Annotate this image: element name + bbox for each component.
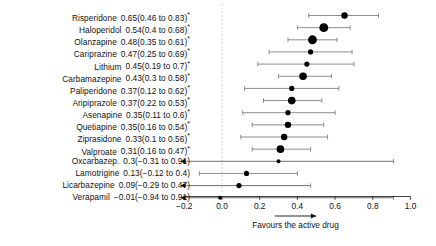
forest-row: [241, 134, 328, 140]
forest-row-label: Paliperidone0.37(0.12 to 0.62)*: [0, 84, 190, 95]
forest-row: [186, 159, 394, 164]
forest-row-label: Licarbazepine0.09(−0.29 to 0.47): [0, 181, 190, 189]
effect-size-marker: [244, 171, 249, 176]
x-axis-tick-label: 0.6: [329, 202, 341, 210]
forest-row: [279, 72, 332, 80]
forest-row-label: Lithium0.45(0.19 to 0.7)*: [0, 60, 190, 71]
study-name: Quetiapine: [76, 122, 117, 132]
favours-caption: Favours the active drug: [252, 221, 339, 230]
effect-size-text: 0.3(−0.31 to 0.91): [123, 156, 190, 166]
forest-row-label: Valproate0.31(0.16 to 0.47)*: [0, 145, 190, 156]
effect-size-text: 0.48(0.35 to 0.61): [121, 37, 187, 47]
study-name: Cariprazine: [74, 49, 117, 59]
effect-size-marker: [277, 145, 285, 153]
forest-row-label: Ziprasidone0.33(0.1 to 0.56)*: [0, 132, 190, 143]
forest-row: [309, 12, 379, 18]
effect-size-marker: [277, 159, 281, 163]
x-axis-tick-label: −0.2: [176, 202, 192, 210]
forest-row: [258, 62, 354, 67]
x-axis-tick-label: 1.0: [405, 202, 417, 210]
forest-row: [186, 183, 311, 188]
effect-size-marker: [285, 122, 291, 128]
significance-asterisk: *: [187, 120, 190, 127]
effect-size-text: 0.45(0.19 to 0.7): [125, 61, 187, 71]
significance-asterisk: *: [187, 35, 190, 42]
effect-size-marker: [341, 12, 347, 18]
effect-size-text: 0.43(0.3 to 0.58): [125, 73, 187, 83]
effect-size-marker: [289, 86, 294, 91]
study-name: Lithium: [94, 61, 121, 71]
effect-size-text: 0.47(0.25 to 0.69): [121, 49, 187, 59]
study-name: Verapamil: [72, 192, 109, 202]
forest-row: [269, 49, 352, 54]
forest-row-label: Verapamil−0.01(−0.94 to 0.91): [0, 193, 190, 201]
significance-asterisk: *: [187, 11, 190, 18]
effect-size-marker: [299, 72, 307, 80]
forest-row-label: Lamotrigine0.13(−0.12 to 0.4): [0, 169, 190, 177]
forest-row-label: Cariprazine0.47(0.25 to 0.69)*: [0, 47, 190, 58]
significance-asterisk: *: [187, 72, 190, 79]
effect-size-marker: [319, 23, 328, 32]
significance-asterisk: *: [187, 84, 190, 91]
forest-row: [288, 35, 337, 44]
effect-size-text: 0.65(0.46 to 0.83): [121, 13, 187, 23]
forest-row-label: Asenapine0.35(0.11 to 0.6)*: [0, 108, 190, 119]
effect-size-text: 0.37(0.22 to 0.53): [121, 98, 187, 108]
effect-size-text: 0.33(0.1 to 0.56): [125, 134, 187, 144]
forest-row: [297, 23, 350, 32]
significance-asterisk: *: [187, 145, 190, 152]
forest-row: [252, 145, 310, 153]
effect-size-text: 0.31(0.16 to 0.47): [121, 146, 187, 156]
effect-size-text: 0.13(−0.12 to 0.4): [123, 168, 190, 178]
study-name: Paliperidone: [70, 86, 117, 96]
effect-size-text: 0.54(0.4 to 0.68): [125, 25, 187, 35]
effect-size-marker: [304, 62, 309, 67]
study-name: Oxcarbazep.: [72, 156, 120, 166]
forest-row: [243, 110, 335, 115]
x-axis-tick-label: 0.4: [292, 202, 304, 210]
significance-asterisk: *: [187, 60, 190, 67]
x-axis-tick-label: 0.2: [254, 202, 266, 210]
study-name: Lamotrigine: [75, 168, 119, 178]
study-name: Risperidone: [72, 13, 117, 23]
study-name: Asenapine: [82, 110, 122, 120]
forest-row-label: Quetiapine0.35(0.16 to 0.54)*: [0, 120, 190, 131]
significance-asterisk: *: [187, 132, 190, 139]
forest-row-label: Olanzapine0.48(0.35 to 0.61)*: [0, 35, 190, 46]
forest-row-label: Carbamazepine0.43(0.3 to 0.58)*: [0, 72, 190, 83]
study-name: Licarbazepine: [62, 180, 114, 190]
study-name: Haloperidol: [79, 25, 122, 35]
effect-size-marker: [288, 97, 296, 105]
effect-size-marker: [308, 49, 313, 54]
effect-size-marker: [236, 183, 241, 188]
significance-asterisk: *: [187, 108, 190, 115]
effect-size-marker: [285, 110, 290, 115]
effect-size-text: 0.37(0.12 to 0.62): [121, 86, 187, 96]
significance-asterisk: *: [187, 47, 190, 54]
forest-row: [245, 86, 339, 91]
x-axis-tick-label: 0.0: [216, 202, 228, 210]
effect-size-text: 0.35(0.16 to 0.54): [121, 122, 187, 132]
forest-row-label: Risperidone0.65(0.46 to 0.83)*: [0, 11, 190, 22]
study-name: Aripiprazole: [72, 98, 116, 108]
study-name: Ziprasidone: [78, 134, 122, 144]
effect-size-marker: [281, 134, 287, 140]
effect-size-text: 0.35(0.11 to 0.6): [126, 110, 187, 120]
forest-row: [263, 97, 321, 105]
forest-row: [252, 122, 324, 128]
significance-asterisk: *: [187, 96, 190, 103]
effect-size-marker: [308, 35, 317, 44]
forest-row-label: Oxcarbazep.0.3(−0.31 to 0.91): [0, 157, 190, 165]
study-name: Carbamazepine: [62, 73, 121, 83]
significance-asterisk: *: [187, 23, 190, 30]
forest-row-label: Aripiprazole0.37(0.22 to 0.53)*: [0, 96, 190, 107]
forest-row: [199, 171, 297, 176]
forest-row-label: Haloperidol0.54(0.4 to 0.68)*: [0, 23, 190, 34]
x-axis-tick-label: 0.8: [367, 202, 379, 210]
study-name: Olanzapine: [74, 37, 116, 47]
effect-size-text: 0.09(−0.29 to 0.47): [119, 180, 190, 190]
